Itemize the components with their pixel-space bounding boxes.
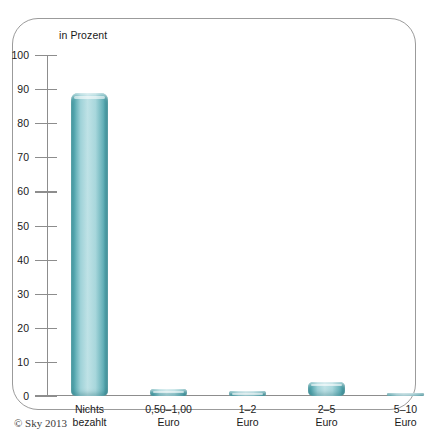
x-tick-label-3-line2: Euro xyxy=(284,416,369,429)
y-tick-70: 70 xyxy=(35,157,57,158)
y-axis-unit-label: in Prozent xyxy=(59,29,107,41)
y-tick-label-30: 30 xyxy=(17,288,29,299)
bar-5-10-euro[interactable] xyxy=(387,393,424,396)
y-tick-40: 40 xyxy=(35,260,57,261)
y-tick-label-60: 60 xyxy=(17,186,29,197)
bar-slot-3: 2–5 Euro xyxy=(308,55,345,396)
y-tick-label-40: 40 xyxy=(17,254,29,265)
bar-nichts-bezahlt[interactable] xyxy=(71,93,108,396)
plot-area: 100 90 80 70 60 50 40 30 20 10 0 xyxy=(47,55,403,396)
x-tick-label-4-line1: 5–10 xyxy=(363,403,434,416)
bar-slot-4: 5–10 Euro xyxy=(387,55,424,396)
bar-1-2-euro[interactable] xyxy=(229,391,266,396)
y-tick-30: 30 xyxy=(35,294,57,295)
y-tick-label-0: 0 xyxy=(23,391,29,402)
y-tick-label-50: 50 xyxy=(17,220,29,231)
y-tick-label-90: 90 xyxy=(17,84,29,95)
x-tick-label-2-line1: 1–2 xyxy=(205,403,290,416)
copyright-notice: © Sky 2013 xyxy=(14,417,67,429)
x-tick-label-2: 1–2 Euro xyxy=(205,403,290,429)
y-tick-20: 20 xyxy=(35,328,57,329)
y-tick-10: 10 xyxy=(35,362,57,363)
x-tick-label-1-line1: 0,50–1,00 xyxy=(126,403,211,416)
y-tick-0: 0 xyxy=(35,396,57,397)
chart-card: in Prozent 100 90 80 70 60 50 40 30 20 xyxy=(12,18,416,410)
bar-slot-2: 1–2 Euro xyxy=(229,55,266,396)
bar-2-5-euro[interactable] xyxy=(308,382,345,396)
x-tick-label-1-line2: Euro xyxy=(126,416,211,429)
x-tick-label-1: 0,50–1,00 Euro xyxy=(126,403,211,429)
x-tick-label-2-line2: Euro xyxy=(205,416,290,429)
x-tick-label-3-line1: 2–5 xyxy=(284,403,369,416)
x-tick-label-4: 5–10 Euro xyxy=(363,403,434,429)
y-tick-label-70: 70 xyxy=(17,152,29,163)
y-tick-label-80: 80 xyxy=(17,118,29,129)
y-tick-80: 80 xyxy=(35,123,57,124)
y-tick-90: 90 xyxy=(35,89,57,90)
y-tick-label-100: 100 xyxy=(11,50,29,61)
y-tick-50: 50 xyxy=(35,226,57,227)
bar-050-100-euro[interactable] xyxy=(150,389,187,396)
y-tick-100: 100 xyxy=(35,55,57,56)
bar-slot-0: Nichts bezahlt xyxy=(71,55,108,396)
y-tick-label-20: 20 xyxy=(17,323,29,334)
x-tick-label-4-line2: Euro xyxy=(363,416,434,429)
y-tick-60: 60 xyxy=(35,191,57,192)
y-tick-label-10: 10 xyxy=(17,357,29,368)
x-tick-label-0-line1: Nichts xyxy=(47,403,132,416)
x-tick-label-3: 2–5 Euro xyxy=(284,403,369,429)
bar-slot-1: 0,50–1,00 Euro xyxy=(150,55,187,396)
